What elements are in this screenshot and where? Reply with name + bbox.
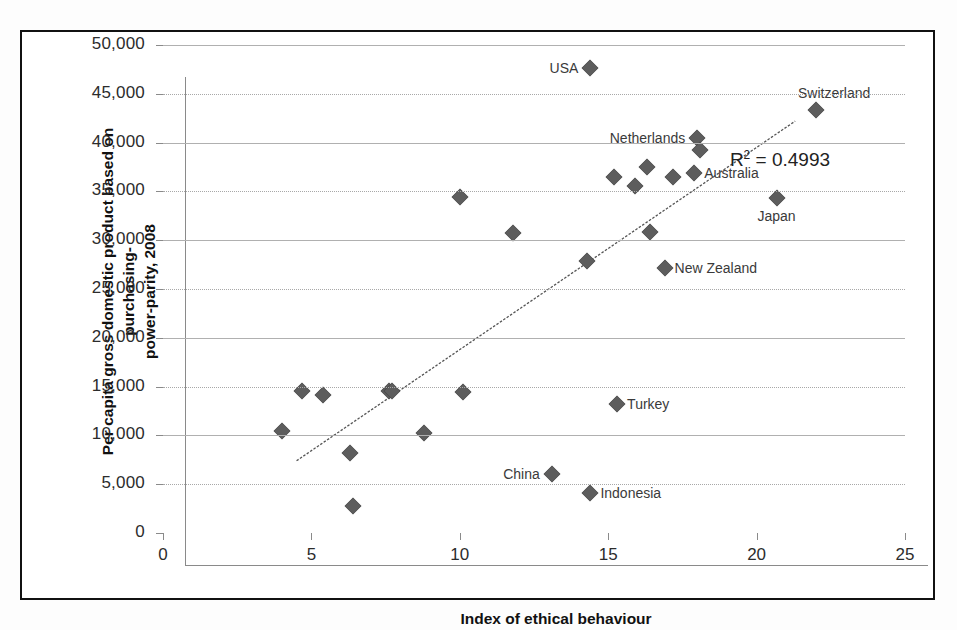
data-point-label: Japan [757,208,795,224]
x-tick-label: 20 [727,545,787,565]
x-tick-mark [905,533,906,540]
x-tick-mark [163,533,164,540]
data-point [505,226,521,242]
chart-frame: ChinaTurkeyIndonesiaUSANew ZealandAustra… [20,30,935,600]
data-point [295,383,311,399]
y-tick-label: 30,000 [35,229,145,249]
x-axis-line [185,565,928,566]
x-axis-title: Index of ethical behaviour [185,610,927,628]
data-point [666,169,682,185]
gridline-y [163,191,905,192]
data-point-label: Turkey [627,396,669,412]
data-point [315,388,331,404]
x-tick-label: 0 [133,545,193,565]
gridline-y [163,484,905,485]
gridline-y [163,387,905,388]
y-tick-label: 25,000 [35,278,145,298]
y-tick-mark [156,484,163,485]
gridline-y [163,45,905,46]
y-tick-label: 15,000 [35,376,145,396]
gridline-y [163,240,905,241]
y-tick-mark [156,191,163,192]
data-point-new-zealand [657,260,673,276]
gridline-y [163,338,905,339]
gridline-y [163,435,905,436]
data-point-china [544,467,560,483]
gridline-y [163,289,905,290]
data-point-label: USA [550,60,579,76]
y-tick-label: 50,000 [35,34,145,54]
data-point-turkey [609,396,625,412]
data-point-label: New Zealand [675,260,758,276]
data-point-usa [583,61,599,77]
data-point [692,143,708,159]
y-axis-line [185,77,186,566]
x-tick-label: 5 [281,545,341,565]
data-point-japan [770,190,786,206]
figure-container: ChinaTurkeyIndonesiaUSANew ZealandAustra… [0,0,957,630]
data-point-indonesia [583,485,599,501]
y-tick-mark [156,143,163,144]
x-tick-mark [757,533,758,540]
x-tick-label: 15 [578,545,638,565]
y-tick-mark [156,45,163,46]
y-tick-label: 40,000 [35,132,145,152]
data-point [606,169,622,185]
data-point-label: China [503,466,540,482]
y-tick-label: 0 [35,522,145,542]
y-tick-mark [156,289,163,290]
y-tick-mark [156,338,163,339]
y-tick-mark [156,533,163,534]
gridline-y [163,94,905,95]
data-point-switzerland [808,103,824,119]
y-tick-label: 5,000 [35,473,145,493]
y-tick-label: 45,000 [35,83,145,103]
data-point [639,159,655,175]
r-squared-annotation: R2 = 0.4993 [730,148,830,171]
x-tick-label: 10 [430,545,490,565]
data-point [342,445,358,461]
y-tick-mark [156,240,163,241]
data-point-label: Indonesia [600,485,661,501]
y-tick-mark [156,94,163,95]
data-point [345,498,361,514]
data-point [642,225,658,241]
y-tick-mark [156,387,163,388]
y-tick-label: 35,000 [35,180,145,200]
gridline-y [163,143,905,144]
x-tick-label: 25 [875,545,935,565]
y-tick-label: 20,000 [35,327,145,347]
y-tick-mark [156,435,163,436]
x-tick-mark [311,533,312,540]
y-tick-label: 10,000 [35,424,145,444]
x-tick-mark [608,533,609,540]
data-point-australia [686,165,702,181]
data-point [580,253,596,269]
data-point [274,424,290,440]
data-point [416,426,432,442]
x-tick-mark [460,533,461,540]
